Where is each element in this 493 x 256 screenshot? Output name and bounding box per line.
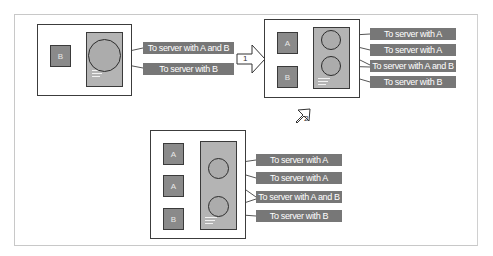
stage3-label-3: To server with A and B — [256, 191, 342, 203]
transfer-icon — [318, 78, 332, 86]
stage2-label-3: To server with A and B — [370, 60, 456, 72]
client-label: A — [171, 182, 176, 191]
stage3-client-a2: A — [163, 175, 184, 197]
stage1-label-2: To server with B — [143, 63, 234, 75]
stage2-label-4: To server with B — [370, 76, 456, 88]
stage1-label-1: To server with A and B — [143, 42, 234, 54]
step-1-number: 1 — [243, 54, 247, 63]
stage3-label-1: To server with A — [256, 154, 342, 166]
transfer-icon — [205, 217, 219, 225]
stage2-pool-a — [321, 30, 341, 50]
stage2-pool-b — [321, 56, 341, 76]
client-label: B — [58, 52, 63, 61]
stage2-label-2: To server with A — [370, 44, 456, 56]
stage3-label-4: To server with B — [256, 210, 342, 222]
stage3-pool-b — [208, 196, 229, 217]
stage2-client-a: A — [277, 32, 298, 54]
client-label: B — [285, 73, 290, 82]
stage1-pool — [88, 39, 121, 72]
client-label: A — [285, 39, 290, 48]
stage2-label-1: To server with A — [370, 28, 456, 40]
step-2-number: 2 — [304, 114, 308, 123]
client-label: A — [171, 150, 176, 159]
stage3-pool-a — [208, 158, 229, 179]
stage3-label-2: To server with A — [256, 172, 342, 184]
stage3-client-a1: A — [163, 143, 184, 165]
stage3-client-b: B — [163, 208, 184, 230]
stage2-client-b: B — [277, 66, 298, 88]
client-label: B — [171, 215, 176, 224]
stage1-client-b: B — [50, 45, 71, 67]
